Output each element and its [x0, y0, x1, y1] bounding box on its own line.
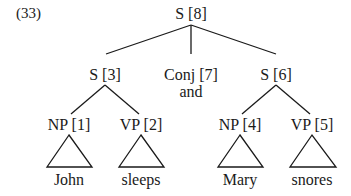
- triangle-vp2: [119, 135, 164, 167]
- edge-root-s3: [106, 25, 191, 54]
- tree-edges: [0, 0, 351, 196]
- node-root: S [8]: [175, 6, 207, 22]
- edge-s6-np4: [242, 85, 276, 114]
- node-vp2: VP [2]: [120, 117, 163, 133]
- edge-s6-vp5: [276, 85, 310, 114]
- syntax-tree-diagram: (33) S [8] S [3] Conj [7] and S [6] NP […: [0, 0, 351, 196]
- triangle-vp5: [290, 135, 336, 167]
- edge-root-s6: [191, 25, 276, 54]
- word-snores: snores: [292, 172, 333, 188]
- node-s6: S [6]: [260, 67, 292, 83]
- word-mary: Mary: [223, 172, 258, 188]
- node-np4: NP [4]: [219, 117, 262, 133]
- node-vp5: VP [5]: [291, 117, 334, 133]
- edge-s3-vp2: [105, 85, 139, 114]
- word-and: and: [179, 84, 202, 100]
- node-conj: Conj [7]: [164, 67, 218, 83]
- node-np1: NP [1]: [48, 117, 91, 133]
- edge-s3-np1: [71, 85, 105, 114]
- example-number: (33): [16, 6, 41, 21]
- triangle-np1: [47, 135, 92, 167]
- triangle-np4: [218, 135, 263, 167]
- word-sleeps: sleeps: [121, 172, 160, 188]
- node-s3: S [3]: [89, 67, 121, 83]
- word-john: John: [54, 172, 84, 188]
